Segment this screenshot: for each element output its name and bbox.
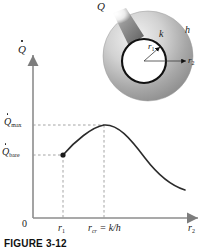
figure-caption: FIGURE 3-12 (4, 238, 67, 247)
y-axis-label: Q (18, 44, 26, 55)
origin-label: 0 (22, 219, 27, 229)
y-tick-label-qmax: Qmax (4, 117, 22, 127)
guide-lines (33, 125, 104, 218)
critical-radius-figure (0, 0, 209, 247)
x-tick-label-rcr: rcr = k/h (88, 223, 121, 233)
y-tick-label-qbare: Qbare (2, 147, 20, 157)
inset-convection-label: h (185, 25, 190, 35)
x-axis-label: r2 (188, 223, 195, 233)
heat-flash-glow (101, 4, 131, 24)
inset-conductivity-label: k (159, 29, 163, 39)
inset-inner-radius-label: r1 (148, 42, 155, 51)
inset-outer-radius-label: r2 (188, 56, 195, 65)
heat-transfer-curve (63, 125, 185, 190)
bare-tube-marker-dot (60, 152, 65, 157)
x-tick-label-r1: r1 (58, 223, 65, 233)
inset-cylinder-diagram (101, 4, 193, 101)
inset-heat-label: Q (97, 1, 105, 12)
